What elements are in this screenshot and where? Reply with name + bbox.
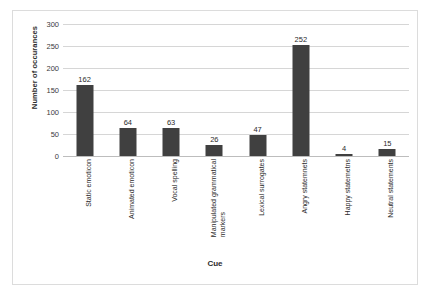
bar-value-label: 63 <box>167 118 175 127</box>
x-tick-label: Static emoticon <box>85 159 94 207</box>
bar-value-label: 4 <box>342 144 346 153</box>
bar-value-label: 64 <box>124 118 132 127</box>
x-tick-label: Animated emoticon <box>128 159 137 219</box>
x-tick-label: Neutral statements <box>387 159 396 218</box>
x-axis-title: Cue <box>13 259 417 268</box>
x-label-slot: Vocal spelling <box>150 159 193 257</box>
bar-value-label: 47 <box>253 125 261 134</box>
x-label-slot: Animated emoticon <box>106 159 149 257</box>
x-label-slot: Manipulated grammatical markers <box>193 159 236 257</box>
bar <box>163 128 180 156</box>
x-axis-tick-labels: Static emoticonAnimated emoticonVocal sp… <box>63 159 409 257</box>
bar-slot: 162 <box>63 24 106 156</box>
bar-value-label: 15 <box>383 139 391 148</box>
x-tick-label: Angry statemnets <box>301 159 310 213</box>
bar-slot: 26 <box>193 24 236 156</box>
bar-slot: 252 <box>279 24 322 156</box>
x-tick-label: Happy statemetns <box>344 159 353 215</box>
x-label-slot: Static emoticon <box>63 159 106 257</box>
bar <box>206 145 223 156</box>
x-label-slot: Neutral statements <box>366 159 409 257</box>
plot-area: 16264632647252415 <box>63 24 409 156</box>
x-label-slot: Happy statemetns <box>323 159 366 257</box>
y-tick-label: 150 <box>31 86 59 95</box>
x-tick-label: Lexical surrogates <box>258 159 267 216</box>
y-axis-tick-labels: 050100150200250300 <box>31 11 59 284</box>
bar <box>119 128 136 156</box>
y-tick-label: 0 <box>31 152 59 161</box>
bar-slot: 47 <box>236 24 279 156</box>
x-tick-label: Manipulated grammatical markers <box>210 159 227 237</box>
y-tick-label: 100 <box>31 108 59 117</box>
y-tick-label: 200 <box>31 64 59 73</box>
chart-frame: Number of occurances 050100150200250300 … <box>12 10 418 285</box>
y-tick-label: 50 <box>31 130 59 139</box>
bar <box>249 135 266 156</box>
bar-slot: 63 <box>150 24 193 156</box>
bar <box>336 154 353 156</box>
bar-value-label: 26 <box>210 135 218 144</box>
bar-value-label: 162 <box>78 75 91 84</box>
y-tick-label: 250 <box>31 42 59 51</box>
bar-slot: 4 <box>323 24 366 156</box>
bar-series: 16264632647252415 <box>63 24 409 156</box>
gridline <box>63 156 409 157</box>
bar-slot: 64 <box>106 24 149 156</box>
bar <box>379 149 396 156</box>
bar-value-label: 252 <box>295 35 308 44</box>
bar <box>76 85 93 156</box>
y-tick-label: 300 <box>31 20 59 29</box>
x-label-slot: Lexical surrogates <box>236 159 279 257</box>
bar-slot: 15 <box>366 24 409 156</box>
bar <box>292 45 309 156</box>
x-tick-label: Vocal spelling <box>171 159 180 202</box>
x-label-slot: Angry statemnets <box>279 159 322 257</box>
